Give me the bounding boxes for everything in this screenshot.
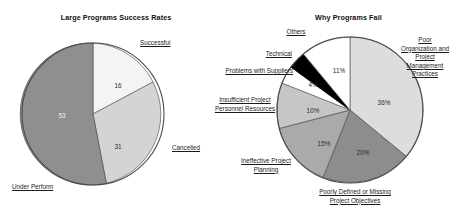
pie-label-project-objectives: Poorly Defined or Missing Project Object… <box>292 188 418 205</box>
pie-value-others: 11% <box>333 67 346 74</box>
pie-label-ineffective-planning: Ineffective Project Planning <box>224 157 308 174</box>
chart-panel-why-programs-fail: Why Programs Fail 36% 20% 15% 10% 4% 11% <box>232 0 465 215</box>
pie-value-poor-organization: 36% <box>378 99 391 106</box>
pie-label-problems-with-suppliers: Problems with Suppliers <box>180 67 293 76</box>
chart-title-why-programs-fail: Why Programs Fail <box>232 13 465 22</box>
pie-label-poor-organization: Poor Organization and Project Management… <box>386 36 464 79</box>
pie-chart-success-rates: 16 31 53 <box>19 40 167 188</box>
pie-label-insufficient-personnel: Insufficient Project Personnel Resources <box>200 96 290 113</box>
pie-value-cancelled: 31 <box>114 143 122 150</box>
pie-value-successful: 16 <box>114 82 122 89</box>
pie-label-technical: Technical <box>222 50 292 59</box>
pie-label-under-perform: Under Perform <box>12 183 53 192</box>
pie-value-problems-with-suppliers: 4% <box>308 81 318 88</box>
pie-label-cancelled: Cancelled <box>172 144 200 153</box>
pie-label-others: Others <box>274 28 318 37</box>
chart-panel-success-rates: Large Programs Success Rates 16 31 53 Su… <box>0 0 232 215</box>
pie-value-ineffective-planning: 15% <box>318 140 331 147</box>
pie-value-insufficient-personnel: 10% <box>307 107 320 114</box>
chart-title-success-rates: Large Programs Success Rates <box>0 13 232 22</box>
pie-value-project-objectives: 20% <box>357 149 370 156</box>
pie-label-successful: Successful <box>140 39 170 48</box>
pie-value-under-perform: 53 <box>58 112 66 119</box>
